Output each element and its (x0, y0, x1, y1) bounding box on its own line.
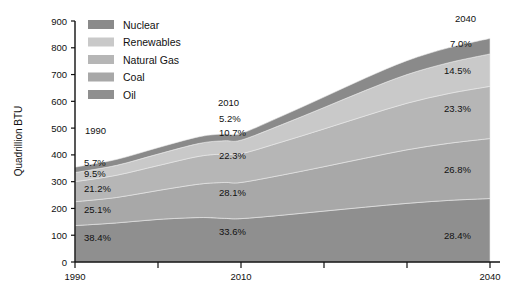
legend-label-renewables: Renewables (123, 36, 181, 48)
pct-2010-coal: 28.1% (219, 187, 246, 198)
y-tick-label: 500 (51, 123, 67, 134)
legend-label-coal: Coal (123, 71, 145, 83)
pct-2010-renewables: 10.7% (219, 127, 246, 138)
y-tick-label: 300 (51, 176, 67, 187)
pct-1990-coal: 25.1% (84, 204, 111, 215)
legend-swatch-renewables (88, 38, 114, 47)
pct-2040-renewables: 14.5% (444, 65, 471, 76)
y-tick-label: 400 (51, 149, 67, 160)
y-tick-label: 900 (51, 16, 67, 27)
year-2040: 2040 (455, 13, 476, 24)
x-tick-label: 2040 (479, 271, 500, 282)
pct-2040-nuclear: 7.0% (450, 38, 472, 49)
pct-2040-oil: 28.4% (444, 230, 471, 241)
pct-2010-nuclear: 5.2% (219, 113, 241, 124)
pct-2010-natural-gas: 22.3% (219, 150, 246, 161)
stacked-area-chart: 0100200300400500600700800900 19902010204… (0, 0, 524, 293)
pct-2040-coal: 26.8% (444, 164, 471, 175)
legend-label-nuclear: Nuclear (123, 19, 160, 31)
legend-swatch-coal (88, 73, 114, 82)
y-tick-label: 800 (51, 42, 67, 53)
y-tick-label: 600 (51, 96, 67, 107)
legend-label-natural-gas: Natural Gas (123, 54, 179, 66)
y-tick-label: 100 (51, 230, 67, 241)
x-tick-label: 2010 (230, 271, 251, 282)
y-axis-title: Quadrillion BTU (13, 106, 24, 177)
pct-2040-natural-gas: 23.3% (444, 103, 471, 114)
pct-1990-oil: 38.4% (84, 232, 111, 243)
y-tick-label: 700 (51, 69, 67, 80)
year-2010: 2010 (218, 97, 239, 108)
y-tick-label: 200 (51, 203, 67, 214)
legend-swatch-natural-gas (88, 55, 114, 64)
pct-1990-renewables: 9.5% (84, 168, 106, 179)
chart-container: 0100200300400500600700800900 19902010204… (0, 0, 524, 293)
pct-2010-oil: 33.6% (219, 226, 246, 237)
legend-swatch-oil (88, 90, 114, 99)
year-1990: 1990 (85, 125, 106, 136)
pct-1990-nuclear: 5.7% (84, 157, 106, 168)
x-tick-label: 1990 (64, 271, 85, 282)
legend-label-oil: Oil (123, 89, 136, 101)
pct-1990-natural-gas: 21.2% (84, 183, 111, 194)
legend-swatch-nuclear (88, 20, 114, 29)
y-tick-label: 0 (62, 257, 67, 268)
